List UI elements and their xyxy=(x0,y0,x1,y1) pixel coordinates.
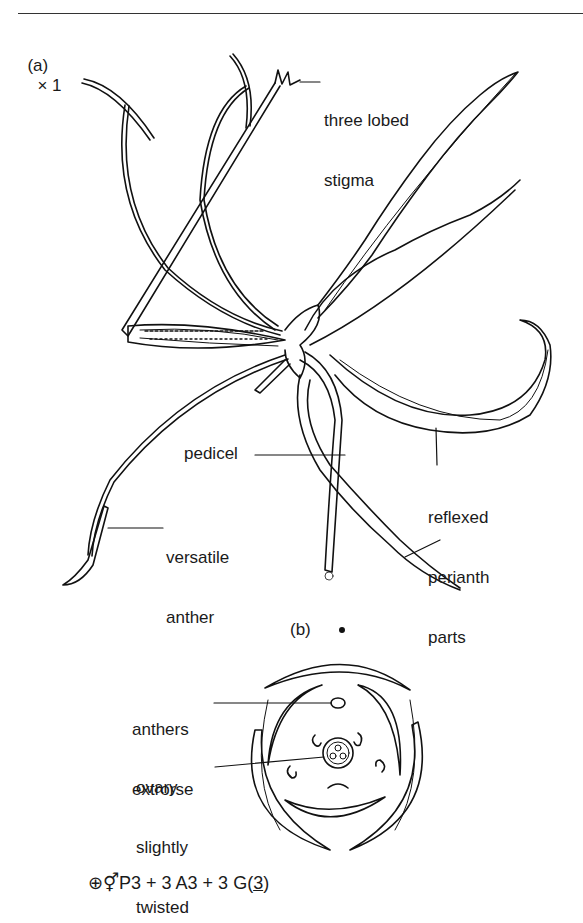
ovary-label-line3: twisted xyxy=(136,898,189,918)
actinomorphic-symbol-icon: ⊕ xyxy=(88,873,103,893)
perianth-formula: P3 + 3 xyxy=(119,873,172,893)
gynoecium-suffix: ) xyxy=(263,873,269,893)
perianth-label: reflexed perianth parts xyxy=(428,468,489,668)
perianth-label-line1: reflexed xyxy=(428,508,489,528)
stigma-label: three lobed stigma xyxy=(324,71,409,211)
perianth-label-line3: parts xyxy=(428,628,489,648)
pedicel-label: pedicel xyxy=(184,444,238,464)
part-a-letter: (a) xyxy=(27,56,48,75)
androecium-formula: A3 + 3 xyxy=(176,873,229,893)
bisexual-symbol-icon: ⚥ xyxy=(103,873,119,893)
perianth-label-line2: perianth xyxy=(428,568,489,588)
anther-label: versatile anther xyxy=(166,508,229,648)
ovary-label-line1: ovary xyxy=(136,778,189,798)
part-b-label: (b) xyxy=(290,620,311,640)
anthers-label-line1: anthers xyxy=(132,720,193,740)
ovary-label: ovary slightly twisted xyxy=(136,738,189,923)
stigma-label-line1: three lobed xyxy=(324,111,409,131)
flower-drawing xyxy=(0,0,583,923)
part-a-label: (a) × 1 xyxy=(18,36,62,96)
ovary-label-line2: slightly xyxy=(136,838,189,858)
anther-label-line1: versatile xyxy=(166,548,229,568)
anther-label-line2: anther xyxy=(166,608,229,628)
stigma-label-line2: stigma xyxy=(324,171,409,191)
floral-diagram-b xyxy=(214,628,422,850)
floral-formula: ⊕⚥P3 + 3 A3 + 3 G(3) xyxy=(88,872,269,894)
scale-label: × 1 xyxy=(37,76,61,95)
gynoecium-count: 3 xyxy=(253,873,263,893)
gynoecium-prefix: G( xyxy=(233,873,253,893)
